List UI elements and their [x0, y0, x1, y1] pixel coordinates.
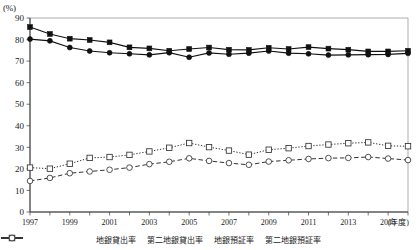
data-point-open-square: [107, 154, 112, 159]
y-tick-label: 50: [15, 99, 25, 109]
data-point-open-square: [127, 152, 132, 157]
data-point-open-circle: [405, 157, 411, 163]
data-point-filled-circle: [47, 38, 52, 43]
data-point-open-circle: [87, 169, 93, 175]
data-point-filled-square: [28, 25, 33, 30]
data-point-open-square: [366, 140, 371, 145]
data-point-open-circle: [246, 162, 252, 168]
data-point-open-circle: [326, 155, 332, 161]
data-point-open-square: [346, 141, 351, 146]
data-point-filled-square: [227, 47, 232, 52]
data-point-filled-circle: [386, 52, 391, 57]
data-point-filled-circle: [226, 52, 231, 57]
legend-item-label: 第二地銀預証率: [265, 236, 321, 245]
y-tick-label: 0: [20, 207, 25, 217]
data-point-open-square: [326, 142, 331, 147]
data-point-open-square: [286, 145, 291, 150]
data-point-open-square: [405, 144, 410, 149]
data-point-open-square: [27, 165, 32, 170]
legend-item-label: 地銀預証率: [214, 236, 254, 245]
y-tick-label: 80: [15, 35, 25, 45]
data-point-open-circle: [127, 165, 133, 171]
data-point-filled-circle: [127, 51, 132, 56]
x-tick-label: 2003: [141, 218, 157, 227]
data-point-open-square: [186, 140, 191, 145]
data-point-filled-square: [147, 46, 152, 51]
data-point-filled-square: [67, 36, 72, 41]
plot-area: 0102030405060708090199719992001200320052…: [0, 0, 416, 250]
data-point-open-circle: [186, 156, 192, 162]
data-point-filled-circle: [67, 45, 72, 50]
legend-item-1[interactable]: 地銀貸出率: [96, 236, 136, 245]
data-point-filled-circle: [326, 53, 331, 58]
data-point-open-circle: [107, 167, 113, 173]
data-point-open-circle: [385, 156, 391, 162]
data-point-open-circle: [266, 159, 272, 165]
data-point-open-circle: [286, 157, 292, 163]
y-tick-label: 30: [15, 143, 25, 153]
data-point-open-circle: [226, 160, 232, 166]
data-point-filled-circle: [406, 51, 411, 56]
data-point-open-square: [167, 145, 172, 150]
y-tick-label: 10: [15, 186, 25, 196]
data-point-filled-circle: [147, 52, 152, 57]
data-point-filled-square: [306, 45, 311, 50]
data-point-filled-circle: [246, 51, 251, 56]
legend-item-3[interactable]: 地銀預証率: [214, 236, 254, 245]
data-point-filled-square: [47, 32, 52, 37]
legend-item-label: 地銀貸出率: [96, 236, 136, 245]
data-point-open-square: [47, 166, 52, 171]
data-point-open-square: [226, 148, 231, 153]
data-point-open-circle: [306, 156, 312, 162]
data-point-filled-circle: [107, 50, 112, 55]
x-tick-label: 2001: [102, 218, 118, 227]
data-point-open-square: [67, 161, 72, 166]
data-point-filled-circle: [167, 50, 172, 55]
data-point-filled-circle: [87, 48, 92, 53]
data-point-filled-circle: [187, 55, 192, 60]
legend-item-2[interactable]: 第二地銀貸出率: [147, 236, 203, 245]
chart-legend: 地銀貸出率第二地銀貸出率地銀預証率第二地銀預証率: [0, 233, 416, 248]
y-tick-label: 20: [15, 164, 25, 174]
data-point-open-circle: [166, 159, 172, 165]
x-tick-label: 2007: [221, 218, 237, 227]
x-tick-label: 2013: [340, 218, 356, 227]
data-point-filled-circle: [266, 48, 271, 53]
plot-frame: [30, 18, 408, 212]
data-point-filled-circle: [306, 51, 311, 56]
data-point-open-circle: [147, 161, 153, 167]
data-point-open-square: [246, 152, 251, 157]
data-point-open-circle: [365, 154, 371, 160]
legend-item-4[interactable]: 第二地銀預証率: [265, 236, 321, 245]
data-point-open-circle: [206, 158, 212, 164]
y-tick-label: 40: [15, 121, 25, 131]
y-tick-label: 60: [15, 78, 25, 88]
x-axis-unit-label: (年度): [388, 217, 410, 227]
data-point-filled-square: [207, 45, 212, 50]
data-point-filled-square: [346, 47, 351, 52]
x-tick-label: 1997: [22, 218, 38, 227]
data-point-open-square: [385, 143, 390, 148]
y-tick-label: 90: [15, 13, 25, 23]
legend-marker-icon: [0, 233, 24, 243]
data-point-filled-square: [107, 40, 112, 45]
data-point-open-circle: [346, 155, 352, 161]
data-point-filled-square: [87, 38, 92, 43]
data-point-filled-square: [326, 46, 331, 51]
data-point-open-square: [266, 147, 271, 152]
data-point-open-square: [206, 144, 211, 149]
data-point-filled-circle: [366, 52, 371, 57]
data-point-open-square: [306, 143, 311, 148]
data-point-open-square: [147, 149, 152, 154]
data-point-filled-square: [187, 47, 192, 52]
line-chart: (%) 010203040506070809019971999200120032…: [0, 0, 416, 250]
data-point-open-circle: [67, 170, 73, 176]
data-point-filled-square: [127, 45, 132, 50]
x-tick-label: 2011: [301, 218, 317, 227]
data-point-filled-circle: [207, 50, 212, 55]
legend-marker-glyph: [9, 235, 15, 241]
y-tick-label: 70: [15, 56, 25, 66]
data-point-open-square: [87, 155, 92, 160]
data-point-filled-circle: [286, 51, 291, 56]
legend-item-label: 第二地銀貸出率: [147, 236, 203, 245]
